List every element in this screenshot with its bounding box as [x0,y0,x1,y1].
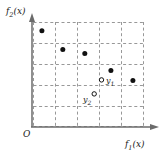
origin-label: O [23,130,30,139]
reference-point-label-y1: y1 [106,77,114,87]
x-axis-arrowhead [150,124,159,130]
y-axis-label-arg: (x) [13,6,25,16]
x-axis [31,124,159,130]
vertical-gridlines [34,22,144,126]
data-points-filled [39,28,135,83]
x-axis-label: f1(x) [125,140,145,151]
data-point [82,51,87,56]
data-point [39,28,44,33]
reference-point-label-y2: y2 [83,96,91,106]
reference-point-y2 [92,92,96,96]
reference-point-label-y2-sub: 2 [88,99,92,106]
y-axis [29,13,35,127]
horizontal-gridlines [34,23,144,127]
y-axis-label: f2(x) [6,7,26,18]
data-point [108,68,113,73]
data-point [60,47,65,52]
data-point [130,78,135,83]
reference-point-label-y1-sub: 1 [111,80,115,87]
y-axis-arrowhead [29,13,35,22]
pareto-scatter-figure: f2(x) f1(x) O y1 y2 [0,0,166,155]
reference-point-y1 [99,78,103,82]
reference-points-open [92,78,104,96]
x-axis-label-arg: (x) [132,139,144,149]
